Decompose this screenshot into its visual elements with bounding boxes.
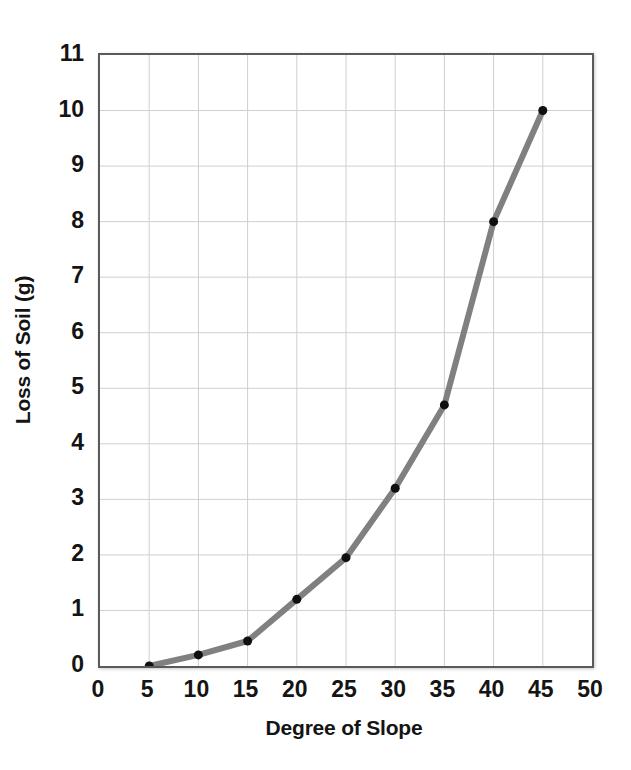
y-tick-label: 5 bbox=[71, 373, 84, 400]
y-tick-label: 6 bbox=[71, 317, 84, 344]
x-tick-label: 35 bbox=[430, 676, 456, 703]
soil-loss-line-chart: Loss of Soil (g) 01234567891011 05101520… bbox=[0, 0, 631, 770]
data-point-marker bbox=[391, 484, 400, 493]
x-axis-title-label: Degree of Slope bbox=[266, 716, 423, 739]
x-tick-label: 30 bbox=[380, 676, 406, 703]
y-axis-tick-labels: 01234567891011 bbox=[44, 0, 92, 770]
data-point-marker bbox=[342, 553, 351, 562]
y-tick-label: 4 bbox=[71, 428, 84, 455]
x-axis-title: Degree of Slope bbox=[98, 716, 590, 740]
y-tick-label: 0 bbox=[71, 651, 84, 678]
data-point-marker bbox=[145, 662, 154, 667]
y-tick-label: 11 bbox=[60, 40, 84, 67]
x-tick-label: 50 bbox=[577, 676, 603, 703]
x-tick-label: 40 bbox=[479, 676, 505, 703]
x-axis-tick-labels: 05101520253035404550 bbox=[98, 676, 590, 710]
y-tick-label: 3 bbox=[71, 484, 84, 511]
plot-area bbox=[98, 53, 594, 668]
x-tick-label: 0 bbox=[92, 676, 105, 703]
y-tick-label: 7 bbox=[71, 262, 84, 289]
plot-canvas bbox=[100, 55, 592, 666]
y-tick-label: 10 bbox=[58, 95, 84, 122]
x-tick-label: 10 bbox=[184, 676, 210, 703]
x-tick-label: 45 bbox=[528, 676, 554, 703]
vertical-gridlines bbox=[149, 55, 543, 666]
data-point-marker bbox=[243, 637, 252, 646]
y-axis-title-label: Loss of Soil (g) bbox=[11, 276, 35, 424]
data-point-marker bbox=[194, 650, 203, 659]
y-tick-label: 2 bbox=[71, 539, 84, 566]
data-point-marker bbox=[292, 595, 301, 604]
data-point-marker bbox=[538, 106, 547, 115]
x-tick-label: 25 bbox=[331, 676, 357, 703]
y-axis-title: Loss of Soil (g) bbox=[0, 0, 46, 700]
data-point-marker bbox=[440, 400, 449, 409]
data-point-marker bbox=[489, 217, 498, 226]
y-tick-label: 1 bbox=[71, 595, 84, 622]
x-tick-label: 5 bbox=[141, 676, 154, 703]
x-tick-label: 20 bbox=[282, 676, 308, 703]
y-tick-label: 8 bbox=[71, 206, 84, 233]
y-tick-label: 9 bbox=[71, 151, 84, 178]
x-tick-label: 15 bbox=[233, 676, 259, 703]
